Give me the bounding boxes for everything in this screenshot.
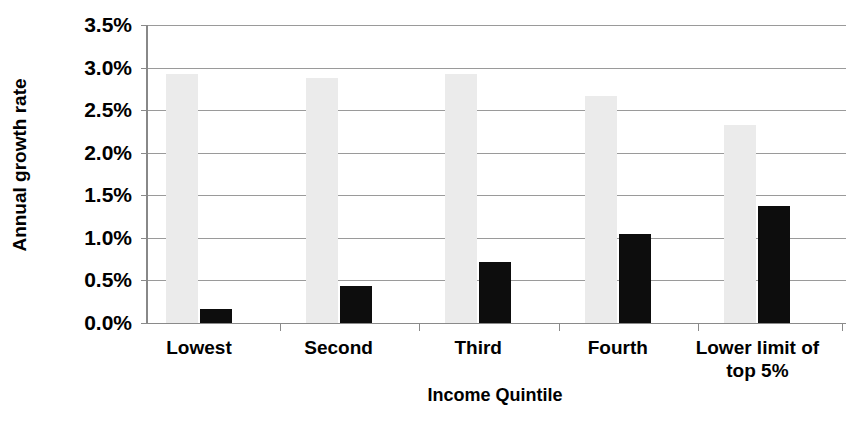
y-axis-tick-label: 2.0% [42,141,132,165]
bars-layer [146,25,844,323]
y-axis-tick-labels: 0.0%0.5%1.0%1.5%2.0%2.5%3.0%3.5% [44,0,140,340]
x-axis-tickmark [559,323,560,331]
bar-series-light-3 [585,96,617,323]
bar-series-light-1 [306,78,338,323]
x-axis-tickmark [280,323,281,331]
bar-series-light-4 [724,125,756,323]
y-axis-tick-label: 3.0% [42,56,132,80]
bar-series-dark-0 [200,309,232,323]
bar-series-dark-2 [479,262,511,323]
x-axis-tick-label-line: Lowest [129,336,269,359]
y-axis-tickmark [141,323,148,324]
x-axis-tickmark [842,323,843,331]
x-axis-tick-label: Lower limit oftop 5% [688,336,828,382]
bar-series-light-2 [445,74,477,323]
y-axis-tick-label: 0.5% [42,268,132,292]
y-axis-title-text: Annual growth rate [9,78,31,251]
x-axis-title: Income Quintile [146,385,844,406]
bar-series-light-0 [166,74,198,323]
x-axis-tickmark [698,323,699,331]
x-axis-tick-label: Third [408,336,548,359]
x-axis-tick-label: Lowest [129,336,269,359]
y-axis-tick-label: 2.5% [42,98,132,122]
x-axis-tick-label: Second [269,336,409,359]
x-axis-tick-label-line: Third [408,336,548,359]
bar-chart: Annual growth rate 0.0%0.5%1.0%1.5%2.0%2… [0,0,858,440]
bar-series-dark-4 [758,206,790,323]
y-axis-tick-label: 1.0% [42,226,132,250]
bar-series-dark-1 [340,286,372,323]
x-axis-tick-label-line: Fourth [548,336,688,359]
x-axis-tick-label-line: Lower limit of [688,336,828,359]
x-axis-baseline [148,323,846,324]
x-axis-tick-label-line: top 5% [688,359,828,382]
x-axis-tick-label: Fourth [548,336,688,359]
x-axis-tick-label-line: Second [269,336,409,359]
x-axis-tickmark [419,323,420,331]
y-axis-title: Annual growth rate [0,0,40,330]
y-axis-tick-label: 1.5% [42,183,132,207]
y-axis-tick-label: 0.0% [42,311,132,335]
bar-series-dark-3 [619,234,651,323]
y-axis-tick-label: 3.5% [42,13,132,37]
